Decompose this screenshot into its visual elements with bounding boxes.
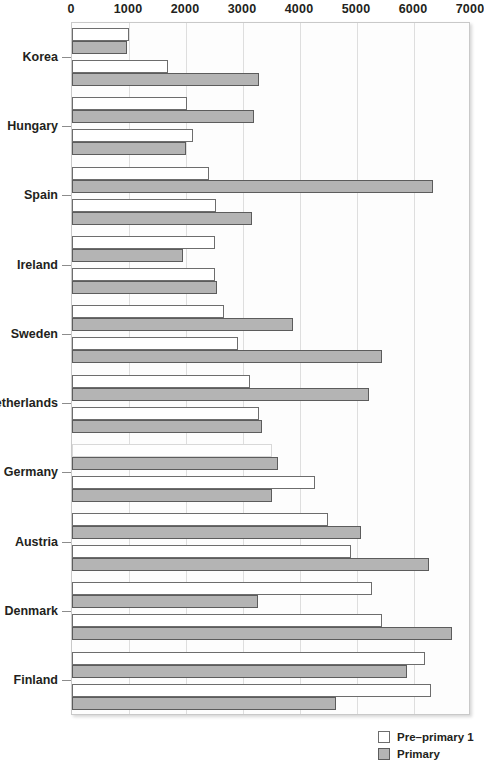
bar <box>72 129 193 142</box>
x-tick-label: 4000 <box>285 2 314 16</box>
bar <box>72 41 127 54</box>
bar <box>72 97 187 110</box>
category-tick <box>62 611 71 612</box>
plot-area <box>71 22 470 715</box>
bar <box>72 407 259 420</box>
legend-swatch-prim <box>378 748 390 760</box>
bar <box>72 489 272 502</box>
legend-item: Primary <box>378 745 484 762</box>
bar <box>72 28 129 41</box>
category-tick <box>62 680 71 681</box>
x-tick-label: 5000 <box>342 2 371 16</box>
bar <box>72 110 254 123</box>
bar <box>72 236 215 249</box>
category-label: Korea <box>23 50 58 64</box>
bar <box>72 684 431 697</box>
category-tick <box>62 403 71 404</box>
category-label: Finland <box>14 673 58 687</box>
category-label: Ireland <box>17 258 58 272</box>
bar <box>72 420 262 433</box>
bar <box>72 545 351 558</box>
bar <box>72 318 293 331</box>
bar <box>72 595 258 608</box>
category-label: Hungary <box>7 119 58 133</box>
bar <box>72 444 272 457</box>
bar <box>72 652 425 665</box>
bar <box>72 526 361 539</box>
bar <box>72 167 209 180</box>
category-tick <box>62 334 71 335</box>
bar <box>72 697 336 710</box>
category-tick <box>62 542 71 543</box>
bar <box>72 558 429 571</box>
x-tick-label: 3000 <box>228 2 257 16</box>
category-label: Netherlands <box>0 396 58 410</box>
legend-swatch-pre <box>378 731 390 743</box>
bar <box>72 375 250 388</box>
bar <box>72 268 215 281</box>
bar <box>72 665 407 678</box>
bar <box>72 337 238 350</box>
category-tick <box>62 57 71 58</box>
legend-label: Primary <box>397 748 440 760</box>
bar <box>72 73 259 86</box>
bar <box>72 142 186 155</box>
legend-item: Pre–primary 1 <box>378 728 484 745</box>
category-label: Denmark <box>5 604 59 618</box>
bar <box>72 249 183 262</box>
bar <box>72 614 382 627</box>
x-axis: 01000200030004000500060007000 <box>0 0 484 22</box>
horizontal-bar-chart: 01000200030004000500060007000 KoreaHunga… <box>0 0 484 770</box>
bar <box>72 457 278 470</box>
category-tick <box>62 126 71 127</box>
bar <box>72 305 224 318</box>
legend-label: Pre–primary 1 <box>397 731 474 743</box>
category-tick <box>62 472 71 473</box>
x-tick-label: 7000 <box>456 2 484 16</box>
x-tick-label: 2000 <box>171 2 200 16</box>
category-label: Austria <box>15 535 58 549</box>
x-tick-label: 1000 <box>114 2 143 16</box>
bar <box>72 60 168 73</box>
y-axis-category-labels: KoreaHungarySpainIrelandSwedenNetherland… <box>0 0 71 770</box>
bar <box>72 212 252 225</box>
legend: Pre–primary 1Primary <box>378 728 484 762</box>
bar <box>72 350 382 363</box>
category-label: Germany <box>4 465 58 479</box>
category-label: Spain <box>24 188 58 202</box>
bar <box>72 180 433 193</box>
bar <box>72 388 369 401</box>
category-tick <box>62 195 71 196</box>
bar <box>72 627 452 640</box>
bar <box>72 199 216 212</box>
bar <box>72 582 372 595</box>
bars-layer <box>72 23 469 714</box>
category-tick <box>62 265 71 266</box>
x-tick-label: 6000 <box>399 2 428 16</box>
bar <box>72 476 315 489</box>
category-label: Sweden <box>11 327 58 341</box>
bar <box>72 513 328 526</box>
bar <box>72 281 217 294</box>
